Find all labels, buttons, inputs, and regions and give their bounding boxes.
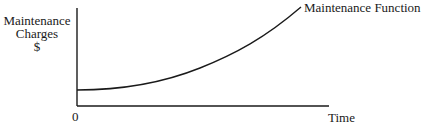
x-axis-label: Time	[328, 111, 355, 125]
y-axis-label-line3: $	[2, 40, 72, 53]
maintenance-chart: Maintenance Charges $ 0 Time Maintenance…	[0, 0, 425, 130]
curve-annotation: Maintenance Function	[304, 1, 421, 15]
maintenance-function-curve	[77, 7, 301, 90]
origin-label: 0	[72, 110, 79, 124]
y-axis-label: Maintenance Charges $	[2, 14, 72, 53]
